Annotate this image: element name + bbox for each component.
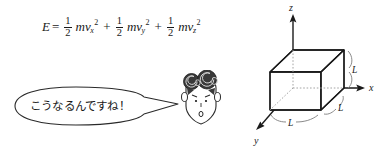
eye-left-icon — [195, 100, 197, 102]
curly-haired-student-face — [175, 70, 227, 128]
velocity-subscript-z: z — [193, 26, 196, 35]
cube-solid-edges — [270, 50, 344, 110]
equation-equals-sign: = — [50, 19, 61, 35]
dimension-right-vertical: L — [348, 51, 357, 88]
velocity-exponent: 2 — [197, 18, 201, 27]
velocity-exponent: 2 — [146, 18, 150, 27]
mouth-icon — [199, 111, 203, 116]
axis-label-x: x — [368, 82, 374, 93]
fraction-denominator: 2 — [116, 28, 123, 39]
speech-bubble: こうなるんですね！ — [8, 84, 183, 128]
ear-left-icon — [182, 93, 188, 102]
fraction-denominator: 2 — [167, 28, 174, 39]
equation-term-x: 1 2 m v x 2 — [63, 16, 98, 38]
cube-diagram-drawing: L L L z x y — [248, 2, 379, 148]
fraction-numerator: 1 — [64, 16, 71, 27]
equation-term-z: 1 2 m v z 2 — [166, 16, 201, 38]
cube-coordinate-diagram: L L L z x y — [248, 2, 379, 148]
axis-label-z: z — [288, 2, 293, 13]
curly-hair-icon — [184, 70, 218, 90]
dimension-label-L-bottom-front: L — [287, 118, 293, 128]
dimension-bottom-front: L — [271, 115, 318, 128]
equation-lhs: E — [42, 19, 50, 35]
fraction-one-half: 1 2 — [64, 16, 71, 38]
fraction-denominator: 2 — [64, 28, 71, 39]
speech-bubble-text: こうなるんですね！ — [30, 97, 138, 113]
equation-plus-2: + — [153, 19, 164, 35]
dimension-label-L-bottom-right: L — [337, 103, 343, 113]
fraction-one-half: 1 2 — [167, 16, 174, 38]
mass-symbol: m — [178, 19, 187, 35]
fraction-numerator: 1 — [116, 16, 123, 27]
eye-right-icon — [205, 100, 207, 102]
dimension-label-L-vertical: L — [351, 65, 357, 75]
velocity-subscript-y: y — [142, 26, 146, 35]
equation-plus-1: + — [101, 19, 112, 35]
equation-term-y: 1 2 m v y 2 — [115, 16, 150, 38]
axis-label-y: y — [253, 135, 259, 146]
ear-right-icon — [215, 93, 221, 102]
mass-symbol: m — [76, 19, 85, 35]
face-drawing — [175, 70, 227, 128]
figure-canvas: E = 1 2 m v x 2 + 1 2 m v y 2 — [0, 0, 379, 148]
fraction-numerator: 1 — [167, 16, 174, 27]
energy-equation: E = 1 2 m v x 2 + 1 2 m v y 2 — [42, 16, 201, 38]
velocity-exponent: 2 — [94, 18, 98, 27]
mass-symbol: m — [127, 19, 136, 35]
velocity-subscript-x: x — [90, 26, 94, 35]
fraction-one-half: 1 2 — [116, 16, 123, 38]
